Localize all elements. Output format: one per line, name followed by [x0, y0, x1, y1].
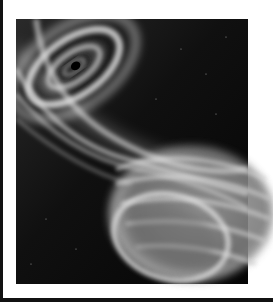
artwork-illustration: [16, 19, 248, 284]
space-artwork: [16, 19, 248, 284]
frame-border-bottom: [0, 298, 273, 302]
frame-border-left: [0, 0, 3, 302]
